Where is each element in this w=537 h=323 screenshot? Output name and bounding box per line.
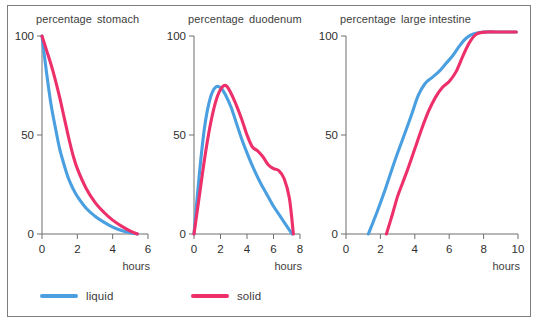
y-tick-label: 50 (325, 129, 338, 141)
y-tick-label: 100 (167, 30, 186, 42)
legend-swatch-liquid (40, 294, 78, 297)
y-tick-label: 100 (15, 30, 34, 42)
x-axis-unit-label: hours (122, 260, 150, 272)
plot-duodenum: 05010002468hours (160, 6, 312, 286)
x-tick-label: 8 (297, 243, 303, 255)
x-tick-label: 2 (74, 243, 80, 255)
y-tick-label: 0 (332, 228, 338, 240)
legend-label-solid: solid (237, 290, 261, 302)
legend-item-liquid: liquid (40, 290, 113, 302)
y-tick-label: 50 (173, 129, 186, 141)
x-tick-label: 0 (39, 243, 45, 255)
x-tick-label: 4 (412, 243, 419, 255)
x-tick-label: 0 (343, 243, 349, 255)
plot-large-intestine: 0501000246810hours (312, 6, 530, 286)
panel-row: percentage stomach 0501000246hours perce… (8, 6, 530, 286)
gastrointestinal-transit-figure: percentage stomach 0501000246hours perce… (0, 0, 537, 323)
panel-stomach: percentage stomach 0501000246hours (8, 6, 160, 286)
legend-item-solid: solid (191, 290, 261, 302)
series-line-liquid (368, 32, 516, 234)
x-tick-label: 4 (244, 243, 251, 255)
series-line-liquid (42, 36, 137, 234)
legend: liquid solid (8, 288, 530, 312)
y-tick-label: 100 (319, 30, 338, 42)
x-tick-label: 0 (191, 243, 197, 255)
x-tick-label: 6 (270, 243, 276, 255)
x-tick-label: 10 (512, 243, 525, 255)
x-axis-unit-label: hours (274, 260, 302, 272)
x-tick-label: 2 (377, 243, 383, 255)
series-line-liquid (194, 86, 292, 234)
x-tick-label: 6 (145, 243, 151, 255)
y-tick-label: 50 (21, 129, 34, 141)
x-tick-label: 4 (109, 243, 116, 255)
y-tick-label: 0 (28, 228, 34, 240)
x-tick-label: 6 (446, 243, 452, 255)
panel-large-intestine: percentage large intestine 0501000246810… (312, 6, 530, 286)
panel-duodenum: percentage duodenum 05010002468hours (160, 6, 312, 286)
plot-stomach: 0501000246hours (8, 6, 160, 286)
y-tick-label: 0 (180, 228, 186, 240)
legend-label-liquid: liquid (86, 290, 113, 302)
legend-swatch-solid (191, 294, 229, 297)
x-axis-unit-label: hours (492, 260, 520, 272)
x-tick-label: 2 (217, 243, 223, 255)
x-tick-label: 8 (480, 243, 486, 255)
